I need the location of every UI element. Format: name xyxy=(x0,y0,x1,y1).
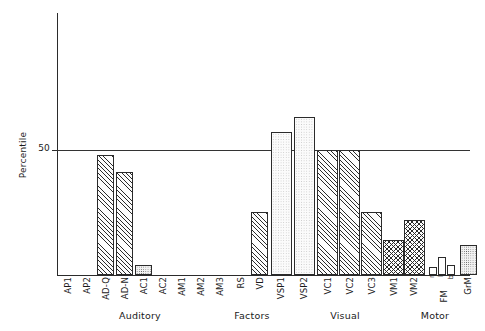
x-tick-label-am3: AM3 xyxy=(216,277,225,296)
bar-vm1 xyxy=(383,240,404,275)
x-tick-label-rs: RS xyxy=(237,277,246,289)
group-label-visual: Visual xyxy=(305,310,385,321)
x-tick-label-vc2: VC2 xyxy=(346,277,355,294)
y-axis-title: Percentile xyxy=(18,110,28,200)
y-tick-label-50: 50 xyxy=(28,143,50,154)
x-tick-label-adn: AD-N xyxy=(121,277,130,299)
x-tick-label-vm2: VM2 xyxy=(410,277,419,296)
bar-vc1 xyxy=(317,150,338,275)
x-tick-label-fm-b: b xyxy=(447,275,455,279)
bar-ad-n xyxy=(116,172,133,275)
x-tick-label-adq: AD-Q xyxy=(102,277,111,300)
bar-vc3 xyxy=(361,212,382,275)
x-tick-label-vc3: VC3 xyxy=(368,277,377,294)
x-tick-label-fm-r: r xyxy=(428,275,436,278)
bar-vsp2 xyxy=(294,117,315,275)
bar-grm xyxy=(460,245,477,275)
x-tick-label-vm1: VM1 xyxy=(390,277,399,296)
x-tick-label-ac2: AC2 xyxy=(159,277,168,294)
x-tick-label-grm: GrM xyxy=(464,277,473,295)
x-tick-label-am2: AM2 xyxy=(197,277,206,296)
x-tick-label-am1: AM1 xyxy=(178,277,187,296)
plot-area xyxy=(57,13,470,275)
bar-ad-q xyxy=(97,155,114,275)
x-tick-label-vsp2: VSP2 xyxy=(300,277,309,299)
x-tick-label-fm-l: l xyxy=(437,275,445,277)
x-tick-label-fm: FM xyxy=(440,290,449,302)
x-tick-label-ac1: AC1 xyxy=(140,277,149,294)
bar-b xyxy=(447,265,455,275)
bar-vc2 xyxy=(339,150,360,275)
group-label-auditory: Auditory xyxy=(95,310,185,321)
bar-vm2 xyxy=(404,220,425,275)
bar-ac1 xyxy=(135,265,152,275)
bar-vd xyxy=(251,212,268,275)
bar-r xyxy=(429,267,437,275)
bar-l xyxy=(438,257,446,275)
x-tick-label-vc1: VC1 xyxy=(324,277,333,294)
x-tick-label-vd: VD xyxy=(256,277,265,290)
x-tick-label-ap2: AP2 xyxy=(83,277,92,294)
percentile-bar-chart: 50 Percentile AP1 AP2 AD-Q AD-N AC1 AC2 … xyxy=(0,0,485,331)
group-label-motor: Motor xyxy=(400,310,470,321)
group-label-factors: Factors xyxy=(212,310,292,321)
x-tick-label-ap1: AP1 xyxy=(64,277,73,294)
x-tick-label-vsp1: VSP1 xyxy=(277,277,286,299)
bar-vsp1 xyxy=(271,132,292,275)
